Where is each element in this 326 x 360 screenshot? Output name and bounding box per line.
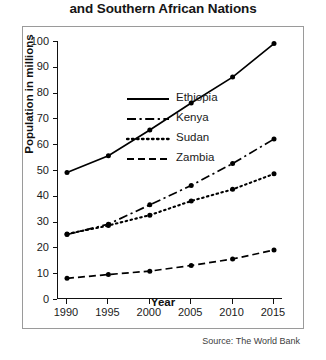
y-tick-mark-40 — [53, 196, 57, 197]
x-tick-mark-2015 — [273, 299, 274, 304]
legend-swatch-ethiopia — [126, 91, 170, 103]
y-tick-label-0: 0 — [15, 294, 49, 305]
x-tick-mark-1990 — [66, 299, 67, 304]
data-point-zambia-2000 — [147, 269, 152, 274]
y-tick-mark-30 — [53, 222, 57, 223]
y-tick-label-10: 10 — [15, 268, 49, 279]
legend-label-kenya: Kenya — [170, 111, 209, 123]
series-line-zambia — [67, 250, 274, 278]
data-point-kenya-2005 — [189, 183, 194, 188]
data-point-kenya-2015 — [272, 137, 277, 142]
data-point-ethiopia-1995 — [106, 153, 111, 158]
x-tick-mark-2005 — [190, 299, 191, 304]
data-point-ethiopia-2010 — [230, 75, 235, 80]
data-point-sudan-1995 — [106, 223, 111, 228]
y-tick-label-40: 40 — [15, 190, 49, 201]
data-point-ethiopia-2015 — [272, 41, 277, 46]
series-lines — [58, 41, 283, 299]
data-point-zambia-2010 — [230, 257, 235, 262]
source-note: Source: The World Bank — [0, 336, 300, 346]
page-title: and Southern African Nations — [0, 0, 326, 17]
legend-label-sudan: Sudan — [170, 131, 209, 143]
data-point-sudan-2000 — [147, 213, 152, 218]
y-tick-label-60: 60 — [15, 139, 49, 150]
legend-swatch-sudan — [126, 131, 170, 143]
y-tick-label-30: 30 — [15, 216, 49, 227]
y-tick-label-100: 100 — [15, 36, 49, 47]
data-point-zambia-1990 — [65, 276, 70, 281]
series-line-sudan — [67, 174, 274, 234]
y-tick-label-20: 20 — [15, 242, 49, 253]
x-tick-label-1990: 1990 — [43, 307, 89, 318]
x-tick-label-2000: 2000 — [126, 307, 172, 318]
legend-swatch-zambia — [126, 151, 170, 163]
y-tick-mark-100 — [53, 41, 57, 42]
y-tick-mark-90 — [53, 67, 57, 68]
legend-label-zambia: Zambia — [170, 151, 214, 163]
data-point-sudan-2015 — [272, 171, 277, 176]
y-tick-label-70: 70 — [15, 113, 49, 124]
x-tick-mark-1995 — [107, 299, 108, 304]
x-tick-label-1995: 1995 — [84, 307, 130, 318]
y-tick-mark-0 — [53, 299, 57, 300]
legend-item-kenya[interactable]: Kenya — [126, 107, 218, 127]
y-tick-mark-80 — [53, 93, 57, 94]
x-tick-mark-2010 — [232, 299, 233, 304]
data-point-sudan-1990 — [65, 231, 70, 236]
x-tick-label-2015: 2015 — [250, 307, 296, 318]
chart-legend: EthiopiaKenyaSudanZambia — [126, 87, 218, 167]
data-point-zambia-1995 — [106, 272, 111, 277]
chart-figure: and Southern African Nations Population … — [0, 0, 326, 360]
y-tick-label-90: 90 — [15, 61, 49, 72]
legend-item-ethiopia[interactable]: Ethiopia — [126, 87, 218, 107]
y-tick-mark-20 — [53, 247, 57, 248]
y-tick-label-80: 80 — [15, 87, 49, 98]
y-tick-mark-70 — [53, 118, 57, 119]
y-tick-mark-10 — [53, 273, 57, 274]
y-tick-mark-50 — [53, 170, 57, 171]
legend-item-zambia[interactable]: Zambia — [126, 147, 218, 167]
x-tick-label-2005: 2005 — [167, 307, 213, 318]
y-tick-mark-60 — [53, 144, 57, 145]
x-tick-label-2010: 2010 — [209, 307, 255, 318]
y-tick-label-50: 50 — [15, 165, 49, 176]
legend-label-ethiopia: Ethiopia — [170, 91, 218, 103]
legend-item-sudan[interactable]: Sudan — [126, 127, 218, 147]
data-point-sudan-2010 — [230, 187, 235, 192]
x-tick-mark-2000 — [149, 299, 150, 304]
legend-swatch-kenya — [126, 111, 170, 123]
data-point-ethiopia-1990 — [65, 170, 70, 175]
plot-area: EthiopiaKenyaSudanZambia — [57, 41, 282, 299]
data-point-zambia-2005 — [189, 263, 194, 268]
data-point-kenya-2010 — [230, 161, 235, 166]
data-point-kenya-2000 — [147, 202, 152, 207]
data-point-zambia-2015 — [272, 247, 277, 252]
data-point-sudan-2005 — [189, 198, 194, 203]
